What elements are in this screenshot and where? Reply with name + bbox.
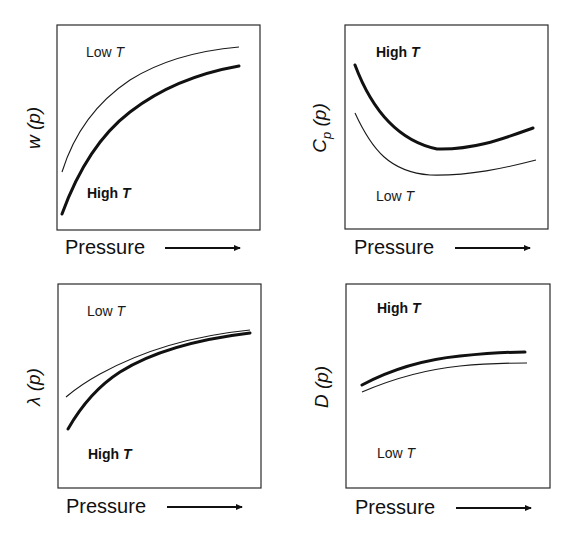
panel-w: Low T High T w (p) Pressure bbox=[23, 25, 260, 258]
annotation-high-t: High T bbox=[87, 185, 132, 201]
y-axis-label: λ (p) bbox=[23, 368, 44, 407]
x-axis-label: Pressure bbox=[354, 236, 434, 258]
annotation-high-t: High T bbox=[377, 300, 422, 316]
annotation-low-t: Low T bbox=[377, 445, 417, 461]
panel-cp: High T Low T Cp (p) Pressure bbox=[309, 25, 548, 258]
annotation-low-t: Low T bbox=[87, 303, 127, 319]
curve-high-t bbox=[355, 65, 533, 149]
annotation-high-t: High T bbox=[376, 44, 421, 60]
figure: Low T High T w (p) Pressure High T Low T… bbox=[0, 0, 570, 535]
annotation-low-t: Low T bbox=[86, 44, 126, 60]
annotation-high-t: High T bbox=[88, 446, 133, 462]
x-axis-label: Pressure bbox=[66, 495, 146, 517]
curve-low-t bbox=[355, 113, 536, 175]
curve-low-t bbox=[362, 363, 527, 392]
curve-low-t bbox=[62, 47, 239, 172]
curve-low-t bbox=[66, 330, 250, 397]
x-axis-label: Pressure bbox=[65, 236, 145, 258]
panel-d: High T Low T D (p) Pressure bbox=[311, 284, 550, 518]
y-axis-label: D (p) bbox=[311, 366, 332, 408]
x-axis-label: Pressure bbox=[355, 496, 435, 518]
annotation-low-t: Low T bbox=[376, 188, 416, 204]
y-axis-label: Cp (p) bbox=[309, 103, 334, 152]
curve-high-t bbox=[68, 333, 250, 429]
y-axis-label: w (p) bbox=[23, 107, 44, 149]
panel-lambda: Low T High T λ (p) Pressure bbox=[23, 284, 261, 517]
